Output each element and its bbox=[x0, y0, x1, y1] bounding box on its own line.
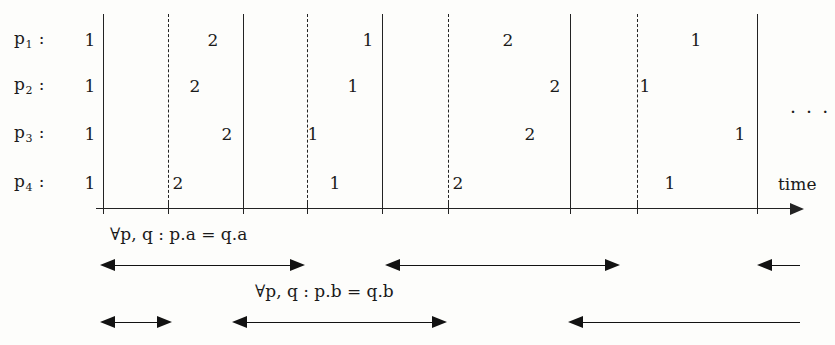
row1-span-2-left-arrowhead bbox=[385, 259, 400, 271]
separator-line-dashed-2 bbox=[168, 14, 169, 208]
row1-span-1-line bbox=[113, 265, 292, 266]
event-value-p4: 1 bbox=[330, 173, 341, 193]
process-label-colon: : bbox=[33, 28, 45, 48]
process-label-base: p bbox=[14, 171, 25, 191]
row2-span-3-line bbox=[581, 322, 800, 323]
process-label-colon: : bbox=[33, 171, 45, 191]
event-value-p2: 2 bbox=[550, 76, 561, 96]
process-label-index: 1 bbox=[25, 38, 33, 51]
separator-line-solid-3 bbox=[243, 14, 244, 208]
row2-span-3-left-arrowhead bbox=[568, 316, 583, 328]
row2-span-2-right-arrowhead bbox=[432, 316, 447, 328]
time-axis-arrowhead bbox=[790, 203, 804, 215]
row1-span-2-line bbox=[398, 265, 607, 266]
process-label-index: 4 bbox=[25, 181, 33, 194]
separator-line-dashed-8 bbox=[637, 14, 638, 208]
row2-span-2-line bbox=[245, 322, 434, 323]
row1-span-1-right-arrowhead bbox=[290, 259, 305, 271]
formula-round-b: ∀p, q : p.b = q.b bbox=[255, 281, 394, 301]
event-value-p4: 1 bbox=[665, 173, 676, 193]
row1-span-1-left-arrowhead bbox=[100, 259, 115, 271]
process-label-index: 3 bbox=[25, 132, 33, 145]
event-value-p4: 1 bbox=[85, 173, 96, 193]
separator-line-solid-9 bbox=[757, 14, 758, 208]
axis-tick-7 bbox=[570, 203, 571, 214]
process-label-2: p2 : bbox=[14, 74, 45, 97]
time-axis-line bbox=[96, 208, 790, 209]
process-label-base: p bbox=[14, 28, 25, 48]
time-axis-label: time bbox=[778, 174, 816, 194]
formula-round-a: ∀p, q : p.a = q.a bbox=[110, 224, 247, 244]
continuation-dots: · · · bbox=[790, 100, 830, 122]
separator-line-solid-1 bbox=[103, 14, 104, 208]
separator-line-solid-5 bbox=[382, 14, 383, 208]
axis-tick-1 bbox=[103, 203, 104, 214]
event-value-p1: 1 bbox=[691, 30, 702, 50]
axis-tick-6 bbox=[448, 203, 449, 214]
event-value-p3: 1 bbox=[308, 124, 319, 144]
row1-span-3-line bbox=[770, 265, 800, 266]
axis-tick-9 bbox=[757, 203, 758, 214]
separator-line-dashed-4 bbox=[307, 14, 308, 208]
event-value-p1: 2 bbox=[208, 30, 219, 50]
axis-tick-3 bbox=[243, 203, 244, 214]
event-value-p2: 1 bbox=[640, 76, 651, 96]
row2-span-2-left-arrowhead bbox=[232, 316, 247, 328]
axis-tick-4 bbox=[307, 203, 308, 214]
timing-diagram-figure: p1 :p2 :p3 :p4 :time12121121211212112121… bbox=[0, 0, 835, 345]
process-label-base: p bbox=[14, 74, 25, 94]
event-value-p1: 2 bbox=[503, 30, 514, 50]
event-value-p4: 2 bbox=[173, 173, 184, 193]
event-value-p3: 1 bbox=[85, 124, 96, 144]
event-value-p2: 1 bbox=[85, 76, 96, 96]
row1-span-3-left-arrowhead bbox=[757, 259, 772, 271]
process-label-colon: : bbox=[33, 74, 45, 94]
row1-span-2-right-arrowhead bbox=[605, 259, 620, 271]
axis-tick-2 bbox=[168, 203, 169, 214]
event-value-p3: 1 bbox=[735, 124, 746, 144]
row2-span-1-left-arrowhead bbox=[100, 316, 115, 328]
event-value-p2: 1 bbox=[348, 76, 359, 96]
process-label-4: p4 : bbox=[14, 171, 45, 194]
event-value-p1: 1 bbox=[363, 30, 374, 50]
process-label-colon: : bbox=[33, 122, 45, 142]
process-label-index: 2 bbox=[25, 84, 33, 97]
axis-tick-5 bbox=[382, 203, 383, 214]
separator-line-dashed-6 bbox=[448, 14, 449, 208]
process-label-3: p3 : bbox=[14, 122, 45, 145]
process-label-base: p bbox=[14, 122, 25, 142]
event-value-p2: 2 bbox=[190, 76, 201, 96]
event-value-p3: 2 bbox=[525, 124, 536, 144]
axis-tick-8 bbox=[637, 203, 638, 214]
event-value-p4: 2 bbox=[453, 173, 464, 193]
row2-span-1-line bbox=[113, 322, 159, 323]
separator-line-solid-7 bbox=[570, 14, 571, 208]
row2-span-1-right-arrowhead bbox=[157, 316, 172, 328]
event-value-p3: 2 bbox=[222, 124, 233, 144]
process-label-1: p1 : bbox=[14, 28, 45, 51]
event-value-p1: 1 bbox=[85, 30, 96, 50]
